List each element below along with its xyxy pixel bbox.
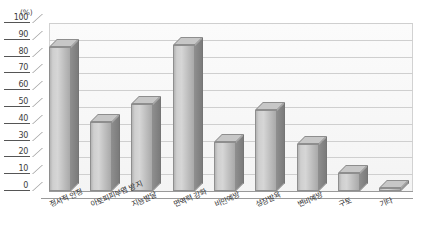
bar-face: [49, 47, 71, 191]
y-axis-tick-rule: [4, 39, 30, 40]
bar-side-face: [236, 134, 244, 191]
bar[interactable]: [379, 188, 401, 191]
y-axis-tick-label: 70: [18, 63, 28, 72]
y-axis: 0102030405060708090100: [0, 23, 41, 199]
bar-chart: (%) 0102030405060708090100 정서적 안정아토피피부염 …: [0, 0, 422, 242]
y-axis-tick-rule: [4, 156, 30, 157]
x-axis-labels: 정서적 안정아토피피부염 방지지능발달면역력 강화비만예방성장발육변비예방구토기…: [41, 199, 413, 242]
bar-side-face: [153, 96, 161, 191]
bar[interactable]: [49, 47, 71, 191]
y-axis-tick-label: 90: [18, 30, 28, 39]
bar-face: [297, 144, 319, 191]
bar[interactable]: [255, 110, 277, 191]
bar-side-face: [277, 102, 285, 191]
bar-face: [379, 188, 401, 191]
bar[interactable]: [90, 122, 112, 191]
bar-face: [90, 122, 112, 191]
bar-side-face: [112, 114, 120, 191]
y-axis-tick-rule: [4, 72, 30, 73]
bar-face: [214, 142, 236, 191]
bar-side-face: [71, 39, 79, 191]
bar[interactable]: [297, 144, 319, 191]
y-axis-tick-connector: [32, 14, 55, 23]
y-axis-tick-label: 0: [23, 181, 28, 190]
bar-series: [41, 23, 413, 199]
y-axis-tick-label: 20: [18, 147, 28, 156]
y-axis-tick-label: 80: [18, 47, 28, 56]
bar-face: [338, 173, 360, 191]
bar-face: [173, 45, 195, 191]
y-axis-tick-label: 40: [18, 114, 28, 123]
bar[interactable]: [173, 45, 195, 191]
y-axis-tick-rule: [4, 140, 30, 141]
y-axis-tick-rule: [4, 22, 30, 23]
y-axis-tick-rule: [4, 89, 30, 90]
y-axis-tick-rule: [4, 173, 30, 174]
y-axis-tick-rule: [4, 56, 30, 57]
bar-side-face: [319, 136, 327, 191]
y-axis-tick-rule: [4, 190, 30, 191]
y-axis-tick-label: 30: [18, 131, 28, 140]
y-axis-tick-label: 10: [18, 164, 28, 173]
bar-face: [255, 110, 277, 191]
bar[interactable]: [338, 173, 360, 191]
y-axis-tick-label: 50: [18, 97, 28, 106]
bar-side-face: [195, 37, 203, 191]
plot-area: [41, 23, 413, 199]
bar[interactable]: [214, 142, 236, 191]
y-axis-tick-rule: [4, 106, 30, 107]
y-axis-tick-label: 60: [18, 80, 28, 89]
y-axis-tick-rule: [4, 123, 30, 124]
y-axis-tick-label: 100: [14, 13, 28, 22]
